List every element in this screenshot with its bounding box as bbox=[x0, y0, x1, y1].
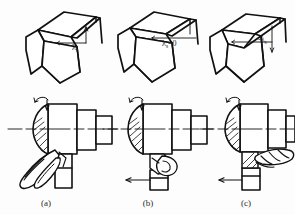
workpiece-b-small-step bbox=[191, 116, 207, 144]
label-b-value: =0 bbox=[168, 39, 177, 48]
panel-a-tool-3d bbox=[26, 12, 102, 83]
workpiece-a-small-step bbox=[96, 116, 112, 144]
svg-text:-λs: -λs bbox=[258, 35, 267, 45]
workpiece-a-mid-step bbox=[77, 110, 96, 150]
workpiece-c-left-end bbox=[225, 104, 240, 152]
label-a-subscript: s bbox=[76, 47, 78, 53]
chip-b-coil bbox=[157, 156, 177, 176]
panel-a-angle-label: λs bbox=[72, 43, 78, 53]
feed-arrow-icon bbox=[126, 178, 150, 182]
workpiece-b-mid-step bbox=[172, 110, 191, 150]
caption-c: (c) bbox=[241, 198, 251, 208]
panel-a-machining-view: (a) bbox=[8, 97, 118, 208]
workpiece-c-large-step bbox=[240, 104, 268, 152]
panel-b-machining-view: (b) bbox=[103, 97, 213, 208]
panel-c-machining-view: (c) bbox=[200, 97, 295, 208]
panel-b-tool-3d bbox=[118, 12, 198, 82]
tool-inclination-figure: λs λs=0 -λs bbox=[0, 0, 295, 215]
label-c-subscript: s bbox=[265, 39, 267, 45]
tool-b-front-face bbox=[118, 28, 136, 72]
feed-arrow-icon bbox=[219, 178, 242, 182]
panel-b-angle-label: λs=0 bbox=[162, 39, 177, 49]
tool-c-front-face bbox=[210, 30, 228, 74]
caption-a: (a) bbox=[41, 198, 51, 208]
panel-c-tool-3d bbox=[210, 14, 286, 82]
tool-c-shank-plan bbox=[242, 168, 260, 190]
svg-text:λs: λs bbox=[72, 43, 78, 53]
caption-b: (b) bbox=[143, 198, 154, 208]
panel-c-angle-label: -λs bbox=[258, 35, 267, 45]
svg-text:λs=0: λs=0 bbox=[162, 39, 177, 49]
tool-a-front-face bbox=[26, 30, 44, 74]
